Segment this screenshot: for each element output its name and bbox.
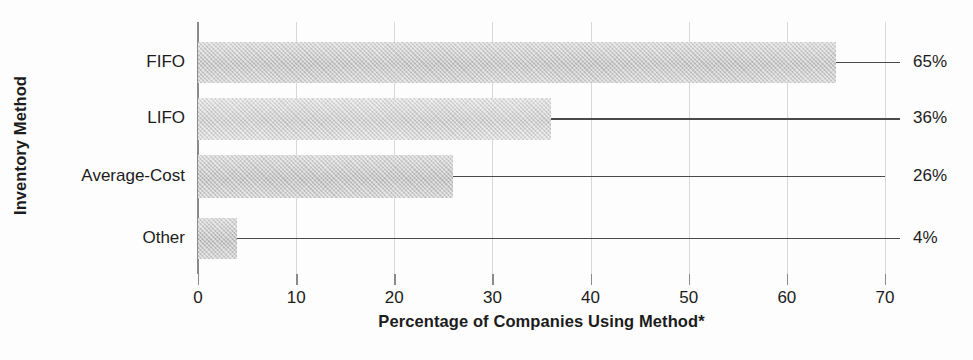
bar: [198, 98, 551, 140]
x-axis-title: Percentage of Companies Using Method*: [198, 312, 885, 331]
value-label: 4%: [913, 228, 938, 248]
y-axis-title: Inventory Method: [4, 0, 38, 290]
value-label: 36%: [913, 108, 947, 128]
x-tick-mark: [394, 274, 395, 285]
leader-line: [453, 176, 885, 178]
x-tick-mark: [198, 274, 199, 285]
leader-line: [551, 118, 900, 120]
bar: [198, 42, 836, 83]
x-tick-label: 50: [679, 288, 698, 308]
bar-fill: [198, 218, 237, 259]
y-axis-title-text: Inventory Method: [12, 75, 31, 214]
bar: [198, 218, 237, 259]
x-tick-label: 30: [483, 288, 502, 308]
horizontal-bar-chart: Inventory Method FIFOLIFOAverage-CostOth…: [0, 0, 973, 360]
gridline: [885, 22, 886, 274]
bar-fill: [198, 42, 836, 83]
plot-area: [198, 22, 885, 274]
x-tick-label: 70: [876, 288, 895, 308]
x-tick-label: 10: [287, 288, 306, 308]
x-tick-mark: [492, 274, 493, 285]
bar: [198, 155, 453, 198]
x-tick-label: 20: [385, 288, 404, 308]
x-tick-mark: [787, 274, 788, 285]
category-label-lifo: LIFO: [35, 108, 185, 128]
bar-fill: [198, 155, 453, 198]
category-label-fifo: FIFO: [35, 52, 185, 72]
value-label: 65%: [913, 52, 947, 72]
x-tick-label: 40: [581, 288, 600, 308]
x-tick-label: 0: [193, 288, 202, 308]
category-label-other: Other: [35, 228, 185, 248]
value-label: 26%: [913, 166, 947, 186]
x-tick-mark: [885, 274, 886, 285]
x-tick-mark: [591, 274, 592, 285]
category-label-group: FIFOLIFOAverage-CostOther: [35, 0, 185, 360]
x-tick-label: 60: [777, 288, 796, 308]
leader-line: [836, 62, 900, 64]
bar-fill: [198, 98, 551, 140]
leader-line: [237, 238, 900, 240]
x-tick-mark: [296, 274, 297, 285]
category-label-average-cost: Average-Cost: [35, 166, 185, 186]
x-tick-mark: [689, 274, 690, 285]
